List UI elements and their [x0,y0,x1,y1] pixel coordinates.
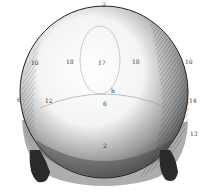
label-12-left: 12 [45,98,53,104]
label-17-center: 17 [98,60,106,66]
label-14-right: 14 [189,98,197,104]
label-10-right: 10 [185,59,193,65]
label-2-top: 2 [102,2,106,8]
label-18-right: 18 [132,59,140,65]
label-b-center: b [111,88,115,94]
label-18-left: 18 [66,59,74,65]
skull-drawing [0,0,208,195]
label-2-bottom: 2 [103,143,107,149]
label-6-center: 6 [103,101,107,107]
label-10-left: 10 [31,60,39,66]
skull-engraving: 2 10 18 17 18 10 12 b 6 14 13 2 6 [0,0,208,195]
label-6-left: 6 [17,97,21,103]
label-13-right: 13 [190,131,198,137]
